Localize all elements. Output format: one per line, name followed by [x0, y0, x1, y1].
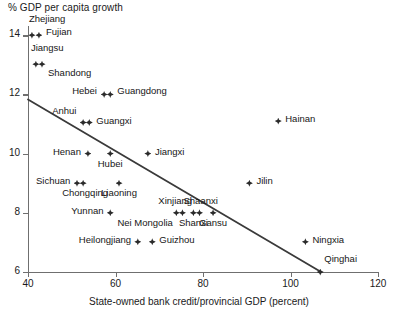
data-point-label: Fujian	[46, 26, 72, 37]
data-point-label: Jiangxi	[155, 146, 185, 157]
data-point-label: Guangxi	[96, 115, 131, 126]
data-point-label: Hainan	[285, 113, 315, 124]
data-point-label: Gansu	[199, 217, 227, 228]
data-point-label: Guizhou	[159, 234, 194, 245]
data-point-label: Jiangsu	[31, 42, 64, 53]
data-point-label: Jilin	[256, 175, 272, 186]
data-point-label: Ningxia	[312, 234, 344, 245]
data-point-label: Hubei	[98, 158, 123, 169]
data-point-label: Heilongjiang	[79, 234, 131, 245]
data-point-label: Anhui	[52, 105, 76, 116]
data-point-label: Shandong	[48, 67, 91, 78]
x-axis-title: State-owned bank credit/provincial GDP (…	[0, 296, 398, 307]
data-point-label: Qinghai	[324, 253, 357, 264]
data-point-label: Henan	[53, 146, 81, 157]
data-point-label: Shaanxi	[184, 195, 218, 206]
data-point-label: Yunnan	[71, 205, 103, 216]
scatter-chart: % GDP per capita growth 68101214 4060801…	[0, 0, 398, 322]
data-point-label: Liaoning	[101, 187, 137, 198]
data-point-label: Sichuan	[36, 175, 70, 186]
data-point-label: Hebei	[72, 85, 97, 96]
data-point-label: Zhejiang	[29, 13, 65, 24]
data-point-label: Nei Mongolia	[117, 217, 172, 228]
data-point-label: Guangdong	[117, 85, 167, 96]
